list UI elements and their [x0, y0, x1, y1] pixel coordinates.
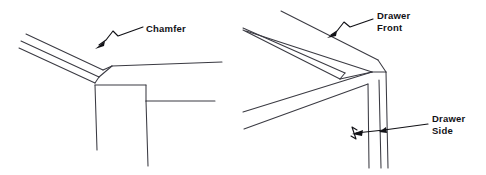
drawer-side-label-line2: Side — [432, 125, 453, 136]
drawer-side-top-inner-edge — [243, 30, 340, 79]
left-chamfer-facet-lower — [99, 66, 112, 77]
drawer-front-top-edge — [281, 11, 378, 60]
right-corner-assembly — [243, 11, 428, 168]
drawer-vertical-edge-1 — [368, 84, 369, 168]
drawer-front-chamfer-facet — [378, 60, 386, 72]
left-corner-assembly — [19, 27, 222, 166]
left-stile-near-edge — [95, 85, 97, 150]
drawer-side-lower-edge-b — [244, 84, 368, 129]
chamfer-drawing-canvas: Chamfer — [0, 0, 486, 175]
drawer-front-leader-line — [331, 19, 373, 35]
left-top-surface-right-edge — [112, 62, 222, 66]
left-rail-bottom-edge — [19, 48, 95, 83]
drawer-vertical-edge-2 — [379, 80, 381, 168]
drawer-side-top-edge — [243, 28, 345, 73]
chamfer-leader-line — [99, 27, 143, 45]
drawer-side-leader-line — [356, 124, 428, 133]
left-rail-top-edge — [26, 34, 103, 70]
technical-drawing-figure: Chamfer — [0, 0, 486, 175]
left-stile-far-edge — [146, 101, 148, 166]
drawer-front-label-line2: Front — [377, 22, 403, 33]
left-corner-arris — [95, 77, 99, 83]
chamfer-leader-arrowhead — [95, 41, 105, 49]
left-rail-top-inner-edge — [21, 41, 99, 77]
drawer-front-label-line1: Drawer — [377, 10, 411, 21]
chamfer-label: Chamfer — [146, 23, 186, 34]
drawer-side-label-line1: Drawer — [432, 113, 466, 124]
drawer-vertical-edge-3 — [386, 72, 388, 168]
